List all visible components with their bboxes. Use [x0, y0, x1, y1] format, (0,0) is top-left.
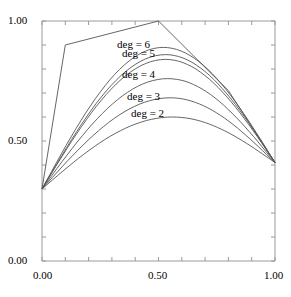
axis-ticks [42, 21, 275, 261]
x-tick-label-050: 0.50 [148, 270, 167, 281]
curve-label-deg3: deg = 3 [127, 91, 160, 102]
plot-frame [42, 21, 275, 261]
x-tick-label-1: 1.00 [264, 270, 283, 281]
x-tick-label-0: 0.00 [33, 270, 52, 281]
curve-label-deg2: deg = 2 [131, 108, 164, 119]
curve-unlabeled [42, 59, 275, 189]
curve-label-deg5: deg = 5 [122, 48, 155, 59]
control-polygon [42, 21, 275, 189]
curve-label-deg4: deg = 4 [122, 69, 155, 80]
y-tick-label-1: 1.00 [8, 15, 27, 26]
y-tick-label-050: 0.50 [8, 135, 27, 146]
y-tick-label-0: 0.00 [8, 255, 27, 266]
